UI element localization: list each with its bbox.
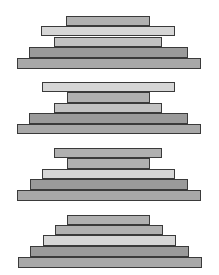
bar-3-2 — [67, 158, 150, 169]
bar-2-5 — [17, 124, 201, 134]
bar-2-2 — [67, 92, 150, 103]
bar-3-4 — [30, 179, 188, 190]
bar-3-3 — [42, 169, 175, 179]
bar-1-1 — [66, 16, 150, 26]
bar-4-3 — [43, 235, 176, 246]
bar-2-4 — [29, 113, 188, 124]
bar-4-4 — [30, 246, 189, 257]
bar-2-1 — [42, 82, 175, 92]
bar-4-5 — [18, 257, 202, 268]
bar-4-1 — [67, 215, 150, 225]
bar-3-5 — [17, 190, 201, 201]
bar-1-3 — [54, 37, 162, 47]
bar-1-2 — [41, 26, 175, 36]
bar-1-4 — [29, 47, 188, 58]
bar-3-1 — [54, 148, 162, 158]
bar-1-5 — [17, 58, 201, 69]
bar-4-2 — [55, 225, 163, 235]
bar-2-3 — [54, 103, 162, 113]
